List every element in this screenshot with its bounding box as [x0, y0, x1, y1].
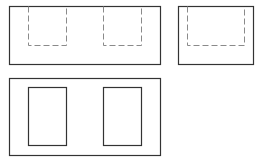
front-view-hidden-pocket-right — [104, 7, 142, 46]
top-view-pocket-left — [29, 88, 67, 146]
front-view-outline — [10, 7, 161, 65]
top-view — [10, 79, 161, 156]
side-view — [179, 7, 254, 65]
top-view-pocket-right — [104, 88, 142, 146]
side-view-outline — [179, 7, 254, 65]
projection-diagram — [0, 0, 261, 165]
front-view — [10, 7, 161, 65]
front-view-hidden-pocket-left — [29, 7, 67, 46]
top-view-outline — [10, 79, 161, 156]
side-view-hidden-pocket — [188, 7, 245, 46]
